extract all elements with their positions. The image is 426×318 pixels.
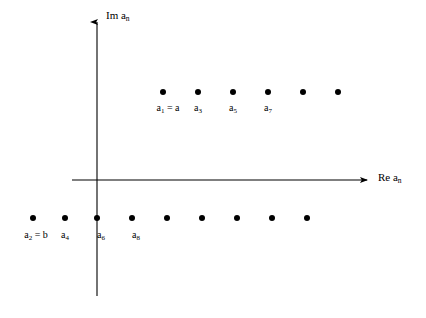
data-point: [265, 89, 271, 95]
data-point: [30, 215, 36, 221]
point-series-lower-row: [30, 215, 310, 221]
axis-lines: [72, 22, 367, 296]
point-label-a3: a3: [194, 103, 202, 113]
data-point: [304, 215, 310, 221]
data-point: [335, 89, 341, 95]
plot-canvas: [0, 0, 426, 318]
imaginary-axis-label: Im an: [106, 10, 130, 21]
point-label-a8: a8: [132, 230, 140, 240]
point-label-a2: a2 = b: [24, 230, 48, 240]
real-axis-label: Re an: [378, 172, 402, 183]
data-point: [195, 89, 201, 95]
data-point: [160, 89, 166, 95]
data-point: [94, 215, 100, 221]
data-point: [269, 215, 275, 221]
data-points-layer: [30, 89, 341, 221]
data-point: [234, 215, 240, 221]
point-series-upper-row: [160, 89, 341, 95]
point-label-a6: a6: [97, 230, 105, 240]
point-label-a1: a1 = a: [156, 103, 179, 113]
data-point: [230, 89, 236, 95]
point-label-a5: a5: [229, 103, 237, 113]
complex-plane-figure: Im an Re an a1 = a a3 a5 a7 a2 = b a4 a6…: [0, 0, 426, 318]
data-point: [164, 215, 170, 221]
data-point: [62, 215, 68, 221]
data-point: [129, 215, 135, 221]
data-point: [300, 89, 306, 95]
data-point: [199, 215, 205, 221]
point-label-a4: a4: [61, 230, 69, 240]
point-label-a7: a7: [264, 103, 272, 113]
